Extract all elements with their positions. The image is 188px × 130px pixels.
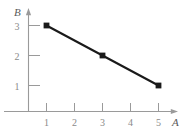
chart-figure: 3 2 1 1 2 3 4 5 B A <box>0 0 188 130</box>
y-tick-label-2: 2 <box>15 51 20 62</box>
y-tick-label-1: 1 <box>15 81 20 92</box>
y-axis <box>26 8 31 112</box>
data-point-marker <box>156 83 162 89</box>
y-tick-label-3: 3 <box>15 21 20 32</box>
x-axis-label: A <box>171 116 179 128</box>
y-axis-arrowhead <box>26 8 31 15</box>
x-axis <box>4 109 178 114</box>
x-axis-arrowhead <box>171 109 178 114</box>
x-tick-label-2: 2 <box>72 117 77 128</box>
x-tick-label-3: 3 <box>100 117 105 128</box>
y-axis-ticks <box>29 26 41 86</box>
x-axis-ticks <box>47 103 159 112</box>
x-tick-label-1: 1 <box>44 117 49 128</box>
line-chart-canvas: 3 2 1 1 2 3 4 5 B A <box>0 0 188 130</box>
x-tick-label-4: 4 <box>128 117 133 128</box>
data-point-marker <box>100 53 106 59</box>
x-tick-label-5: 5 <box>156 117 161 128</box>
y-axis-label: B <box>14 6 21 18</box>
data-point-marker <box>44 23 50 29</box>
